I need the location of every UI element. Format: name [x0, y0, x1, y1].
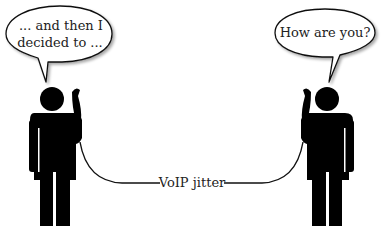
right-speech-bubble — [275, 9, 375, 82]
voip-jitter-diagram: ... and then I decided to ... How are yo… — [0, 0, 382, 231]
left-phone-cord — [80, 142, 160, 183]
connection-label: VoIP jitter — [158, 175, 226, 190]
left-speech-line-1: ... and then I — [19, 18, 103, 33]
right-phone-cord — [224, 142, 303, 183]
right-speech-text: How are you? — [280, 25, 371, 40]
left-speech-line-2: decided to ... — [17, 35, 103, 50]
